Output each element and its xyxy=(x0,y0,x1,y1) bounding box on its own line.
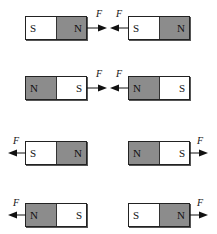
pole-label: N xyxy=(177,209,185,221)
pole-south: S xyxy=(159,142,189,164)
magnet-row1-left: S N xyxy=(25,16,87,40)
pole-label: S xyxy=(30,22,36,34)
pole-north: N xyxy=(26,204,56,226)
pole-label: S xyxy=(30,147,36,159)
pole-label: S xyxy=(179,147,185,159)
pole-north: N xyxy=(56,17,86,39)
pole-south: S xyxy=(56,204,86,226)
pole-south: S xyxy=(26,142,56,164)
pole-label: S xyxy=(76,82,82,94)
force-label: F xyxy=(96,68,102,79)
force-arrow-left-icon xyxy=(110,23,129,33)
magnet-row2-right: N S xyxy=(128,76,190,100)
pole-label: N xyxy=(74,22,82,34)
pole-label: N xyxy=(133,147,141,159)
force-label: F xyxy=(13,135,19,146)
force-label: F xyxy=(116,68,122,79)
force-label: F xyxy=(116,8,122,19)
pole-label: N xyxy=(74,147,82,159)
magnet-row2-left: N S xyxy=(25,76,87,100)
pole-south: S xyxy=(129,17,159,39)
pole-label: N xyxy=(177,22,185,34)
pole-south: S xyxy=(159,77,189,99)
pole-south: S xyxy=(26,17,56,39)
magnet-row1-right: S N xyxy=(128,16,190,40)
pole-north: N xyxy=(26,77,56,99)
pole-north: N xyxy=(159,17,189,39)
force-arrow-right-icon xyxy=(87,23,107,33)
force-arrow-left-icon xyxy=(8,210,26,220)
force-label: F xyxy=(96,8,102,19)
pole-north: N xyxy=(56,142,86,164)
magnet-row3-right: N S xyxy=(128,141,190,165)
pole-label: S xyxy=(133,22,139,34)
pole-label: S xyxy=(76,209,82,221)
force-label: F xyxy=(197,197,203,208)
force-arrow-left-icon xyxy=(110,83,129,93)
pole-north: N xyxy=(159,204,189,226)
force-arrow-left-icon xyxy=(8,148,26,158)
pole-label: N xyxy=(30,209,38,221)
pole-south: S xyxy=(56,77,86,99)
force-arrow-right-icon xyxy=(190,148,208,158)
pole-north: N xyxy=(129,77,159,99)
pole-south: S xyxy=(129,204,159,226)
pole-north: N xyxy=(129,142,159,164)
magnet-row3-left: S N xyxy=(25,141,87,165)
pole-label: S xyxy=(179,82,185,94)
force-arrow-right-icon xyxy=(87,83,107,93)
pole-label: N xyxy=(30,82,38,94)
force-label: F xyxy=(197,135,203,146)
magnet-row4-right: S N xyxy=(128,203,190,227)
force-label: F xyxy=(13,197,19,208)
pole-label: N xyxy=(133,82,141,94)
force-arrow-right-icon xyxy=(190,210,208,220)
pole-label: S xyxy=(133,209,139,221)
magnet-row4-left: N S xyxy=(25,203,87,227)
